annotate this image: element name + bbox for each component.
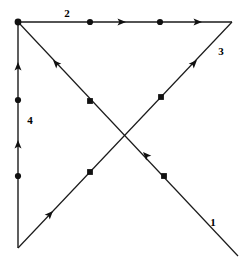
- label-layer: 2413: [27, 7, 224, 228]
- edge-node-dot: [157, 19, 163, 25]
- edge-node-dot: [15, 173, 21, 179]
- edge-node-dot: [87, 19, 93, 25]
- edge-layer: [18, 22, 238, 256]
- vertex-layer: [15, 19, 22, 26]
- direction-arrowhead: [140, 150, 151, 161]
- edge-node-square: [161, 173, 167, 179]
- edge-label-3: 3: [218, 45, 224, 57]
- edge-node-square: [158, 94, 164, 100]
- edge-node-square: [87, 98, 93, 104]
- edge-label-1: 1: [210, 216, 216, 228]
- edge-label-4: 4: [27, 114, 33, 126]
- edge-node-dot: [15, 97, 21, 103]
- diagram-svg: 2413: [0, 0, 248, 259]
- edge-label-2: 2: [64, 7, 70, 19]
- diagonal-bottom-right-to-top-left: [18, 22, 238, 256]
- top-left-vertex: [15, 19, 22, 26]
- edge-node-square: [87, 169, 93, 175]
- figure-canvas: 2413: [0, 0, 248, 259]
- direction-arrowhead: [189, 58, 200, 69]
